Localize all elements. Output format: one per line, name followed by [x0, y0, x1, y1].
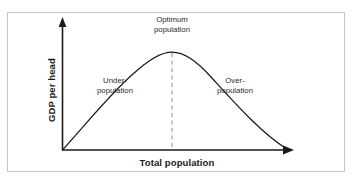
annotation-over-line1: Over- [204, 76, 266, 86]
annotation-under-line1: Under- [84, 76, 146, 86]
x-axis-title: Total population [62, 157, 292, 168]
annotation-over-population: Over- population [204, 76, 266, 95]
annotation-optimum-population: Optimum population [131, 15, 213, 34]
x-axis [62, 146, 294, 155]
annotation-optimum-line1: Optimum [131, 15, 213, 25]
annotation-under-population: Under- population [84, 76, 146, 95]
figure-root: GDP per head Total population Optimum po… [0, 0, 353, 183]
y-axis-arrowhead [59, 17, 67, 27]
gdp-population-curve [63, 52, 288, 150]
annotation-over-line2: population [204, 86, 266, 96]
y-axis-title: GDP per head [46, 58, 57, 122]
y-axis [59, 17, 67, 150]
annotation-under-line2: population [84, 86, 146, 96]
annotation-optimum-line2: population [131, 25, 213, 35]
